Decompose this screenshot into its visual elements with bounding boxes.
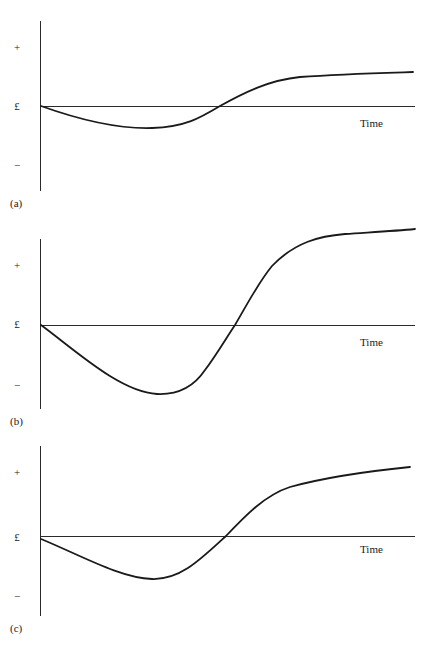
panel-c-id: (c) [10,622,23,635]
panel-a-plus-label: + [14,41,20,53]
panel-a-time-label: Time [360,117,383,129]
panel-b: + £ − Time (b) [10,229,415,428]
figure-three-panel-cashflow: + £ − Time (a) + £ − Time (b) + £ − Time… [0,0,426,647]
panel-b-time-label: Time [360,336,383,348]
panel-b-minus-label: − [14,379,20,391]
panel-c-pound-label: £ [14,531,20,543]
panel-c-plus-label: + [14,466,20,478]
panel-a: + £ − Time (a) [10,21,415,210]
panel-b-plus-label: + [14,259,20,271]
panel-a-id: (a) [10,197,23,210]
panel-a-curve [41,72,413,128]
panel-a-pound-label: £ [14,100,20,112]
panel-c-time-label: Time [360,543,383,555]
panel-c-curve [41,467,410,579]
panel-b-id: (b) [10,415,23,428]
panel-c: + £ − Time (c) [10,446,415,635]
panel-b-curve [41,229,415,394]
panel-a-minus-label: − [14,159,20,171]
panel-c-minus-label: − [14,590,20,602]
panel-b-pound-label: £ [14,318,20,330]
